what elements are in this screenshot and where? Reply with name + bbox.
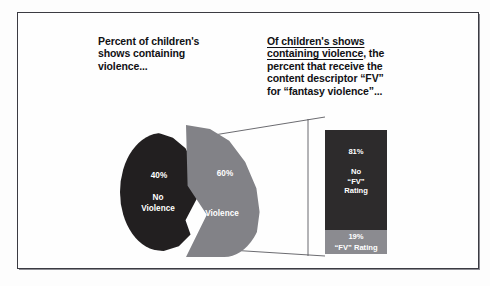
pie-label-violence-text: Violence <box>190 209 254 220</box>
bar-label-fv-percent: 19% <box>325 232 387 242</box>
pie-slice-violence[interactable] <box>186 125 266 257</box>
heading-left-line1: Percent of children's <box>98 35 199 47</box>
slide-frame-border: Percent of children's shows containing v… <box>17 12 479 269</box>
heading-right-bar: Of children's shows containing violence,… <box>267 35 442 97</box>
heading-left-line3: violence... <box>98 60 148 72</box>
pie-label-no-violence-percent: 40% <box>126 171 192 182</box>
heading-right-line5: for “fantasy violence”... <box>267 85 382 97</box>
stacked-bar-chart-fv-rating: 81% No “FV” Rating 19% “FV” Rating <box>325 130 387 254</box>
heading-right-line2-rest: , the <box>363 47 384 59</box>
bar-label-no-fv-percent: 81% <box>325 147 387 157</box>
bar-label-no-fv-text: No “FV” Rating <box>325 167 387 196</box>
heading-right-line3: percent that receive the <box>267 60 382 72</box>
slide-canvas: Percent of children's shows containing v… <box>0 0 490 286</box>
heading-right-underline-1: Of children's shows <box>267 35 364 47</box>
pie-label-no-violence-text: No Violence <box>124 193 192 214</box>
bar-label-fv-text: “FV” Rating <box>325 243 387 253</box>
heading-left-pie: Percent of children's shows containing v… <box>98 35 248 72</box>
heading-left-line2: shows containing <box>98 47 185 59</box>
heading-right-line4: content descriptor “FV” <box>267 72 384 84</box>
pie-label-violence-percent: 60% <box>196 169 254 180</box>
pie-chart-violence: 40% No Violence 60% Violence <box>116 125 266 257</box>
heading-right-underline-2: containing violence <box>267 47 363 59</box>
